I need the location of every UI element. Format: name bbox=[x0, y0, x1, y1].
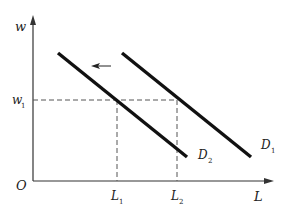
demand-curve-D2 bbox=[58, 53, 187, 157]
svg-text:2: 2 bbox=[208, 157, 212, 165]
D1-label: D 1 bbox=[260, 138, 275, 155]
svg-text:1: 1 bbox=[119, 198, 123, 206]
svg-text:2: 2 bbox=[179, 198, 183, 206]
shift-left-arrow-icon bbox=[91, 63, 111, 69]
demand-curve-D1 bbox=[122, 53, 251, 157]
svg-text:D: D bbox=[197, 148, 208, 162]
origin-label: O bbox=[16, 178, 27, 193]
svg-text:1: 1 bbox=[271, 147, 275, 155]
D2-label: D 2 bbox=[197, 148, 212, 165]
L2-label: L 2 bbox=[170, 189, 183, 206]
y-axis-arrow-icon bbox=[30, 15, 36, 25]
guide-lines bbox=[33, 100, 177, 181]
L1-label: L 1 bbox=[110, 189, 123, 206]
svg-text:1: 1 bbox=[21, 102, 25, 110]
w1-label: w 1 bbox=[12, 93, 25, 110]
svg-text:L: L bbox=[110, 189, 119, 203]
y-axis-label: w bbox=[15, 19, 26, 34]
svg-text:L: L bbox=[170, 189, 179, 203]
svg-text:D: D bbox=[260, 138, 271, 152]
x-axis-arrow-icon bbox=[264, 178, 274, 184]
labor-demand-diagram: w L O w 1 L 1 L 2 D 2 D 1 bbox=[0, 0, 287, 217]
x-axis-label: L bbox=[253, 189, 263, 204]
